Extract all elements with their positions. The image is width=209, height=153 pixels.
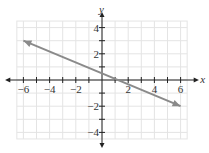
x-axis-label: x (199, 73, 205, 85)
axes (5, 12, 199, 148)
x-tick-label: −4 (44, 83, 56, 95)
x-tick-label: 4 (152, 83, 158, 95)
y-tick-label: 4 (94, 22, 100, 34)
y-tick-label: 2 (94, 48, 100, 60)
x-tick-label: −2 (70, 83, 82, 95)
line-graph: −6−4−224642−2−4 x y (0, 0, 209, 153)
y-tick-label: −2 (87, 100, 99, 112)
y-axis-label: y (98, 3, 104, 15)
x-tick-label: 6 (178, 83, 184, 95)
x-tick-label: −6 (18, 83, 30, 95)
y-tick-label: −4 (87, 126, 99, 138)
